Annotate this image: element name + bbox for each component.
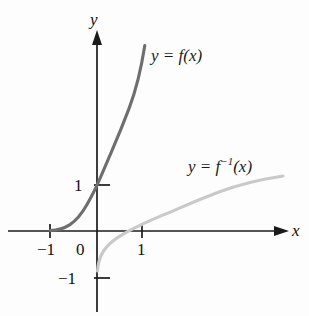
x-axis-label: x: [292, 222, 300, 239]
curve-function-f-inverse: [98, 176, 284, 271]
inverse-function-figure: y = f(x) y = f−1(x) x y −1 0 1 1 −1: [0, 0, 309, 316]
x-tick-label-neg1: −1: [37, 241, 55, 258]
y-tick-label-pos1: 1: [74, 177, 83, 194]
y-tick-label-neg1: −1: [58, 270, 76, 287]
y-axis-label: y: [90, 11, 98, 28]
inverse-label-exponent: −1: [220, 155, 233, 167]
inverse-label-suffix: (x): [233, 157, 252, 176]
function-label-f-inverse: y = f−1(x): [188, 156, 252, 175]
x-tick-label-pos1: 1: [137, 241, 146, 258]
function-label-f: y = f(x): [151, 47, 202, 64]
origin-label: 0: [76, 241, 85, 258]
inverse-label-prefix: y = f: [188, 157, 220, 176]
